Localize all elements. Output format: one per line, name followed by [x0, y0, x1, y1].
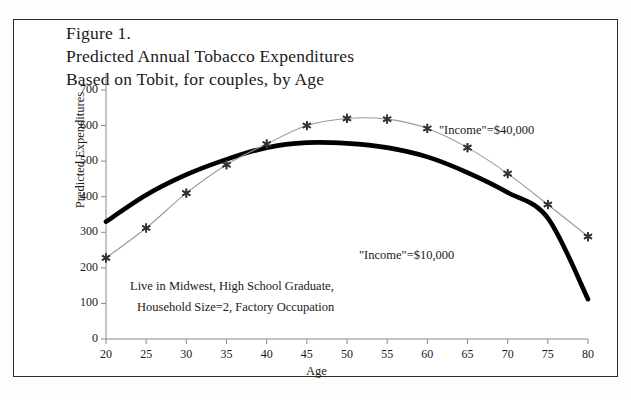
x-axis-tick-label: 25 [131, 347, 161, 362]
y-axis-tick-label: 600 [64, 118, 98, 133]
x-axis-tick-label: 35 [212, 347, 242, 362]
x-axis-ticks [106, 339, 588, 344]
chart-plot-area [14, 20, 619, 378]
x-axis-tick-label: 50 [332, 347, 362, 362]
y-axis-ticks [101, 90, 106, 339]
y-axis-tick-label: 700 [64, 82, 98, 97]
y-axis-tick-label: 400 [64, 189, 98, 204]
axis-lines [106, 74, 588, 339]
y-axis-tick-label: 300 [64, 224, 98, 239]
x-axis-tick-label: 60 [412, 347, 442, 362]
x-axis-tick-label: 75 [533, 347, 563, 362]
x-axis-tick-label: 70 [493, 347, 523, 362]
x-axis-tick-label: 40 [252, 347, 282, 362]
y-axis-tick-label: 0 [64, 331, 98, 346]
x-axis-tick-label: 20 [91, 347, 121, 362]
series-label-income-10000: "Income"=$10,000 [359, 248, 454, 263]
x-axis-tick-label: 65 [453, 347, 483, 362]
figure-container: Figure 1. Predicted Annual Tobacco Expen… [0, 0, 631, 400]
x-axis-tick-label: 45 [292, 347, 322, 362]
y-axis-tick-label: 200 [64, 260, 98, 275]
series-label-income-40000: "Income"=$40,000 [439, 123, 534, 138]
y-axis-tick-label: 100 [64, 295, 98, 310]
series-line-income-10000 [106, 142, 588, 299]
x-axis-tick-label: 55 [372, 347, 402, 362]
x-axis-tick-label: 80 [573, 347, 603, 362]
figure-frame-border: Figure 1. Predicted Annual Tobacco Expen… [13, 19, 618, 377]
y-axis-tick-label: 500 [64, 153, 98, 168]
series-line-income-40000 [106, 118, 588, 258]
x-axis-tick-label: 30 [171, 347, 201, 362]
